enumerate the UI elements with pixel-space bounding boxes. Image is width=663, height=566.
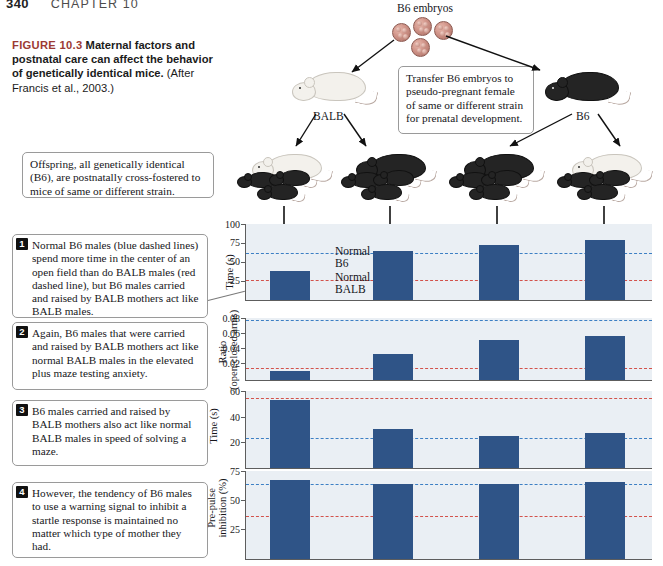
panel2-ytick-004: 0.04 bbox=[212, 343, 240, 354]
callout-text-2: Again, B6 males that were carried and ra… bbox=[32, 327, 199, 379]
parent-mouse-balb bbox=[290, 68, 372, 108]
panel1-ytick-50: 50 bbox=[216, 256, 240, 267]
callout-text-3: B6 males carried and raised by BALB moth… bbox=[32, 405, 191, 457]
callout-2: 2 Again, B6 males that were carried and … bbox=[12, 322, 208, 390]
arrow-balb-to-family2 bbox=[344, 114, 366, 146]
parent-left-label: BALB bbox=[313, 110, 344, 122]
embryo-icon bbox=[413, 17, 432, 36]
pup-mouse bbox=[256, 182, 302, 204]
panel1-bar-1 bbox=[270, 271, 310, 300]
panel1-plot bbox=[245, 224, 652, 301]
panel2-bar-1 bbox=[270, 371, 310, 380]
panel3-ref-line-normal-balb bbox=[246, 398, 652, 399]
family-group-1 bbox=[236, 152, 332, 208]
family-group-2 bbox=[340, 152, 436, 208]
parent-right-label: B6 bbox=[576, 110, 589, 122]
panel4-y-axis-title-line2: inhibition (%) bbox=[217, 468, 228, 548]
panel4-bar-4 bbox=[585, 482, 625, 559]
parent-mouse-b6 bbox=[543, 68, 625, 108]
legend-normal-b6: Normal B6 bbox=[335, 245, 370, 269]
panel2-plot bbox=[245, 318, 652, 381]
embryo-icon bbox=[411, 38, 430, 57]
panel1-bar-2 bbox=[373, 251, 413, 300]
panel2-ytick-002: 0.02 bbox=[212, 358, 240, 369]
callout-badge-1: 1 bbox=[16, 238, 28, 250]
embryo-icon bbox=[392, 23, 411, 42]
panel3-ytick-20: 20 bbox=[216, 437, 240, 448]
panel3-bar-2 bbox=[373, 429, 413, 468]
panel2-ytick-006: 0.06 bbox=[212, 328, 240, 339]
panel4-ytick-75: 75 bbox=[216, 466, 240, 477]
transfer-note-box: Transfer B6 embryos to pseudo-pregnant f… bbox=[398, 66, 534, 134]
callout-badge-2: 2 bbox=[16, 326, 28, 338]
panel1-ytick-100: 100 bbox=[216, 219, 240, 230]
panel4-ytick-25: 25 bbox=[216, 524, 240, 535]
panel2-bar-2 bbox=[373, 354, 413, 380]
panel2-bar-3 bbox=[479, 340, 519, 380]
panel3-y-axis-title: Time (s) bbox=[208, 392, 219, 460]
callout-badge-3: 3 bbox=[16, 404, 28, 416]
figure-number: FIGURE 10.3 bbox=[12, 39, 82, 51]
panel1-ytick-75: 75 bbox=[216, 237, 240, 248]
callout-4: 4 However, the tendency of B6 males to u… bbox=[12, 482, 208, 558]
panel1-bar-3 bbox=[479, 245, 519, 300]
running-head: 340 CHAPTER 10 bbox=[6, 0, 139, 11]
panel3-ytick-60: 60 bbox=[216, 386, 240, 397]
callout-3: 3 B6 males carried and raised by BALB mo… bbox=[12, 400, 208, 466]
pup-mouse bbox=[576, 182, 622, 204]
panel3-bar-1 bbox=[270, 400, 310, 468]
callout-text-4: However, the tendency of B6 males to use… bbox=[32, 487, 192, 552]
panel2-ref-line-normal-b6 bbox=[246, 320, 652, 321]
panel3-ytick-40: 40 bbox=[216, 412, 240, 423]
panel1-ytick-25: 25 bbox=[216, 275, 240, 286]
pup-mouse bbox=[468, 182, 514, 204]
page-number: 340 bbox=[6, 0, 29, 11]
panel4-bar-3 bbox=[479, 484, 519, 559]
family-group-4 bbox=[556, 152, 652, 208]
transfer-note-text: Transfer B6 embryos to pseudo-pregnant f… bbox=[406, 72, 523, 124]
pup-mouse bbox=[360, 182, 406, 204]
callout-badge-4: 4 bbox=[16, 486, 28, 498]
offspring-note-box: Offspring, all genetically identical (B6… bbox=[22, 152, 214, 198]
panel4-ytick-50: 50 bbox=[216, 495, 240, 506]
arrow-embryo-to-b6 bbox=[446, 36, 540, 70]
figure-caption: FIGURE 10.3 Maternal factors and postnat… bbox=[12, 38, 217, 95]
callout-1: 1 Normal B6 males (blue dashed lines) sp… bbox=[12, 234, 208, 318]
arrow-b6-to-family4 bbox=[598, 114, 620, 146]
family-group-3 bbox=[448, 152, 544, 208]
panel1-bar-4 bbox=[585, 240, 625, 300]
panel4-plot bbox=[245, 471, 652, 560]
figure-page: 340 CHAPTER 10 FIGURE 10.3 Maternal fact… bbox=[0, 0, 663, 566]
panel3-plot bbox=[245, 391, 652, 469]
panel2-ytick-008: 0.08 bbox=[212, 313, 240, 324]
panel3-bar-3 bbox=[479, 436, 519, 468]
chapter-label: CHAPTER 10 bbox=[51, 0, 139, 11]
offspring-note-text: Offspring, all genetically identical (B6… bbox=[30, 158, 200, 197]
panel4-bar-1 bbox=[270, 480, 310, 559]
legend-normal-balb: Normal BALB bbox=[335, 271, 370, 295]
panel2-bar-4 bbox=[585, 336, 625, 380]
panel4-bar-2 bbox=[373, 484, 413, 559]
embryos-label: B6 embryos bbox=[397, 2, 453, 14]
embryo-icon bbox=[434, 21, 453, 40]
callout-text-1: Normal B6 males (blue dashed lines) spen… bbox=[32, 239, 199, 317]
panel3-bar-4 bbox=[585, 433, 625, 468]
